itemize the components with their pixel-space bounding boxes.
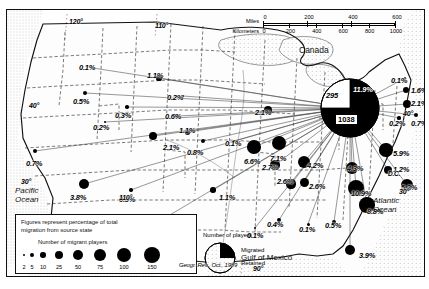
percentage-label: 0.4%	[267, 221, 283, 229]
latitude-30-west: 30°	[21, 178, 31, 185]
migration-map-figure: 0.1%0.5%0.3%0.2%0.7%3.8%0.3%0.9%1.1%0.2%…	[0, 0, 429, 289]
legend-dot	[117, 248, 131, 262]
legend-dot	[55, 251, 63, 259]
latitude-30-east: 30°	[399, 188, 409, 195]
percentage-label: 1.1%	[219, 194, 235, 202]
migrant-dot	[403, 100, 411, 108]
percentage-label: 2.1%	[411, 100, 425, 108]
percentage-label: 0.8%	[187, 149, 203, 157]
legend-note-line1: Figures represent percentage of total	[21, 219, 118, 227]
scale-tick-miles: 200	[302, 14, 316, 20]
scale-tick-km: 0	[256, 28, 272, 34]
scale-tick-km: 1000	[388, 28, 404, 34]
migrant-dot	[129, 188, 132, 191]
scale-tick-mark	[342, 23, 343, 28]
percentage-label: 3.8%	[70, 194, 86, 202]
scale-tick-mark	[316, 23, 317, 28]
latitude-40-east: 40°	[403, 110, 413, 117]
percentage-label: 7.1%	[270, 155, 286, 163]
scale-bar-miles	[263, 23, 395, 26]
great-lakes	[219, 34, 344, 86]
scale-tick-mark	[263, 23, 264, 28]
percentage-label: 3.9%	[359, 252, 375, 260]
pie-legend-title: Number of players	[203, 232, 252, 238]
pie-retained-count: 295	[326, 92, 338, 100]
scale-tick-mark	[369, 23, 370, 28]
pie-legend-retained: Retained	[241, 260, 265, 266]
legend-dot-value: 75	[92, 264, 108, 270]
scale-tick-mark	[289, 23, 290, 28]
percentage-label: 0.7%	[26, 160, 42, 168]
scale-km-label: Kilometers	[225, 28, 259, 34]
legend-dot	[94, 249, 107, 262]
percentage-label: 6.6%	[244, 158, 260, 166]
percentage-label: 0.7%	[411, 120, 425, 128]
latitude-40-west: 40°	[29, 102, 39, 109]
legend-dot-value: 10	[35, 264, 51, 270]
percentage-label: 2.6%	[277, 178, 293, 186]
pie-legend-migrated: Migrated	[241, 247, 264, 253]
scale-tick-km: 600	[335, 28, 351, 34]
dc-label: D.C.	[388, 171, 400, 178]
percentage-label: 0.5%	[73, 98, 89, 106]
longitude-110-top: 110°	[155, 22, 168, 29]
migrant-dot	[125, 105, 129, 109]
legend-dot-value: 50	[70, 264, 86, 270]
scale-tick-miles: 0	[258, 14, 272, 20]
legend-dot-value: 100	[116, 264, 132, 270]
migrant-dot	[247, 140, 261, 154]
percentage-label: 4.3%	[347, 165, 363, 173]
percentage-label: 0.6%	[165, 113, 181, 121]
legend-dot	[144, 247, 160, 263]
scale-tick-miles: 600	[390, 14, 404, 20]
scale-tick-km: 400	[309, 28, 325, 34]
percentage-label: 0.1%	[225, 140, 241, 148]
legend-note-line2: migration from source state	[21, 227, 92, 235]
percentage-label: 1.1%	[179, 127, 195, 135]
percentage-label: 0.1%	[299, 226, 315, 234]
legend-box: Figures represent percentage of total mi…	[15, 214, 197, 274]
scale-bar: Miles Kilometers 0200400600 020040060080…	[225, 14, 415, 40]
pie-share-label: 11.9%	[353, 86, 373, 94]
map-frame: 0.1%0.5%0.3%0.2%0.7%3.8%0.3%0.9%1.1%0.2%…	[6, 9, 425, 277]
percentage-label: 2.1%	[255, 109, 271, 117]
pie-migrated-count: 1038	[335, 114, 358, 125]
legend-dot	[30, 253, 34, 257]
percentage-label: 0.2%	[389, 120, 405, 128]
scale-tick-mark	[351, 21, 352, 27]
percentage-label: 0.2%	[167, 94, 183, 102]
source-attribution: Geogr. Rev., Oct., 1989	[179, 262, 237, 268]
scale-tick-km: 800	[362, 28, 378, 34]
legend-dot	[23, 254, 25, 256]
percentage-label: 0.1%	[391, 77, 407, 85]
percentage-label: 4.2%	[307, 162, 323, 170]
percentage-label: 0.1%	[79, 64, 95, 72]
pie-legend-symbol	[203, 241, 237, 275]
atlantic-ocean-label: AtlanticOcean	[373, 196, 399, 214]
migrant-dot	[379, 143, 392, 156]
percentage-label: 0.5%	[325, 222, 341, 230]
legend-dot-value: 25	[51, 264, 67, 270]
migrant-dot	[300, 178, 309, 187]
percentage-label: 5.9%	[393, 150, 409, 158]
scale-tick-miles: 400	[346, 14, 360, 20]
scale-miles-label: Miles	[225, 18, 259, 24]
longitude-120: 120°	[69, 18, 83, 25]
pacific-ocean-label: PacificOcean	[15, 186, 39, 204]
percentage-label: 0.2%	[93, 124, 109, 132]
percentage-label: 1.1%	[147, 72, 163, 80]
percentage-label: 2.6%	[309, 183, 325, 191]
longitude-110-bottom: 110°	[119, 194, 132, 201]
percentage-label: 2.1%	[163, 144, 179, 152]
percentage-label: 1.6%	[411, 87, 425, 95]
percentage-label: 0.3%	[115, 112, 131, 120]
legend-dot-value: 150	[144, 264, 160, 270]
legend-dot-title: Number of migrant players	[38, 239, 107, 247]
legend-dot	[73, 250, 84, 261]
legend-dot	[40, 252, 46, 258]
canada-label: Canada	[299, 46, 329, 56]
scale-tick-km: 200	[282, 28, 298, 34]
scale-tick-mark	[395, 23, 396, 28]
migrant-dot	[210, 187, 215, 192]
percentage-label: 2.7%	[262, 164, 278, 172]
